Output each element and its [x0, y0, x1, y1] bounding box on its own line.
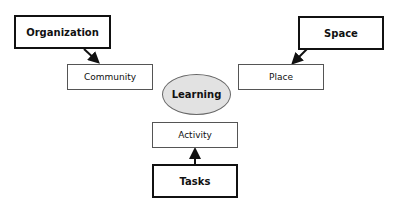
organization-box: Organization [14, 15, 111, 49]
community-box: Community [67, 64, 153, 90]
activity-box: Activity [152, 122, 238, 148]
tasks-box: Tasks [152, 164, 238, 198]
arrow-organization-community [84, 49, 97, 61]
space-box: Space [298, 16, 384, 50]
place-box: Place [238, 64, 324, 90]
learning-ellipse: Learning [162, 74, 231, 115]
arrow-space-place [294, 49, 307, 62]
